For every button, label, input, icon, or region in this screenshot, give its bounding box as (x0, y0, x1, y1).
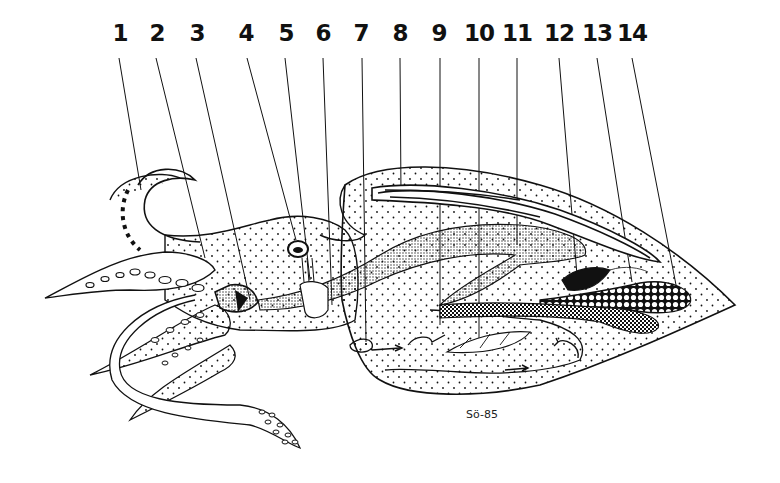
label-12: 12 (544, 22, 574, 45)
label-1: 1 (112, 22, 127, 45)
anatomy-diagram: 1 2 3 4 5 6 7 8 9 10 11 12 13 14 Sö-85 (0, 0, 780, 483)
label-11: 11 (502, 22, 532, 45)
label-14: 14 (617, 22, 647, 45)
label-6: 6 (315, 22, 330, 45)
label-8: 8 (392, 22, 407, 45)
label-4: 4 (238, 22, 253, 45)
label-10: 10 (464, 22, 494, 45)
label-13: 13 (582, 22, 612, 45)
label-3: 3 (189, 22, 204, 45)
label-5: 5 (278, 22, 293, 45)
label-9: 9 (431, 22, 446, 45)
label-7: 7 (353, 22, 368, 45)
artist-signature: Sö-85 (466, 408, 498, 421)
squid-illustration (0, 0, 780, 483)
label-2: 2 (149, 22, 164, 45)
